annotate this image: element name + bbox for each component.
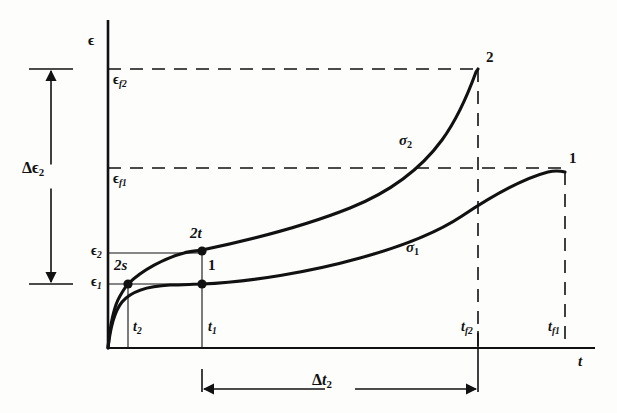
curve-label-sigma-1: σ1 [406, 240, 419, 255]
curve-group [108, 69, 565, 348]
plot-canvas [0, 0, 617, 413]
x-tick-label-t-2: t2 [133, 320, 142, 334]
point-label-2s: 2s [114, 258, 127, 273]
point-marker-1 [197, 279, 206, 288]
y-axis-label: ϵ [88, 33, 94, 48]
curve-endpoint-label-2: 2 [486, 50, 494, 65]
point-label-1: 1 [208, 258, 216, 273]
curve-endpoint-label-1: 1 [569, 151, 577, 166]
x-axis-label: t [578, 354, 582, 369]
curve-sigma-2 [108, 69, 478, 348]
dashed-guides [108, 69, 565, 348]
delta-t-2-label: Δt2 [312, 372, 332, 388]
point-marker-2s [123, 279, 132, 288]
curve-label-sigma-2: σ2 [399, 133, 412, 148]
y-tick-label-eps-1: ϵ1 [91, 275, 102, 289]
delta-eps-2-annotation [29, 69, 73, 284]
y-tick-label-eps-2: ϵ2 [91, 244, 102, 258]
point-label-2t: 2t [190, 226, 202, 241]
y-tick-label-eps-f1: ϵf1 [113, 172, 127, 186]
x-tick-label-t-1: t1 [208, 320, 217, 334]
creep-curve-figure: ϵ t ϵf2 ϵf1 ϵ2 ϵ1 t2 t1 tf2 tf1 σ1 σ2 1 … [0, 0, 617, 413]
delta-eps-2-label: Δϵ2 [22, 160, 44, 176]
point-marker-2t [197, 246, 206, 255]
y-tick-label-eps-f2: ϵf2 [113, 73, 127, 87]
x-tick-label-t-f1: tf1 [548, 320, 560, 334]
x-tick-label-t-f2: tf2 [461, 320, 473, 334]
curve-sigma-1 [108, 171, 565, 348]
delta-t-2-annotation [202, 331, 478, 392]
